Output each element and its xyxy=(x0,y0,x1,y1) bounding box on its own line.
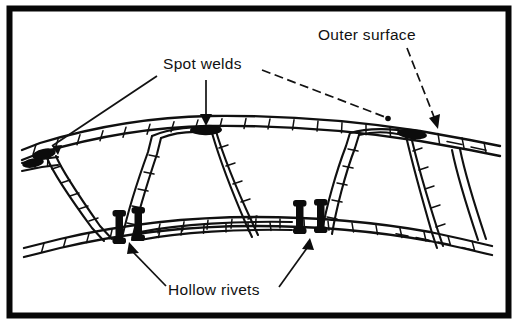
label-hollow-rivets: Hollow rivets xyxy=(168,281,260,298)
label-spot-welds: Spot welds xyxy=(163,55,242,72)
label-outer-surface: Outer surface xyxy=(318,26,416,43)
figure-container: Outer surface Spot welds Hollow rivets xyxy=(0,0,518,325)
panel-cutaway-diagram: Outer surface Spot welds Hollow rivets xyxy=(0,0,518,325)
leader-endpoint-dot xyxy=(385,116,391,122)
figure-background xyxy=(0,0,518,325)
